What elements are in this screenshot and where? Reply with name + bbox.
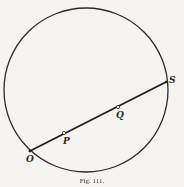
point-o-label: O [26, 154, 34, 164]
point-s-label: S [169, 75, 176, 85]
point-q-label: Q [116, 110, 124, 120]
point-q: Q [116, 105, 124, 120]
circle [4, 8, 168, 172]
figure-page: O P Q S Fig. 111. [0, 0, 184, 187]
point-p-label: P [62, 136, 70, 146]
figure-caption: Fig. 111. [0, 177, 184, 185]
circle-chord-diagram: O P Q S [0, 0, 184, 187]
chord-os [30, 82, 166, 151]
